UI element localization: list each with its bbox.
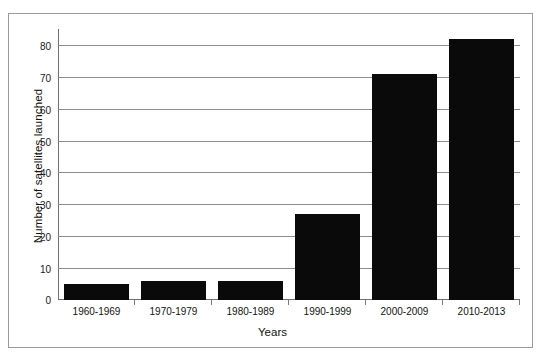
- bar[interactable]: [218, 281, 283, 300]
- y-tick-label: 50: [40, 136, 51, 147]
- x-tick-mark: [288, 300, 289, 305]
- x-tick-label: 2010-2013: [435, 306, 527, 317]
- plot-area: 01020304050607080 1960-19691970-19791980…: [58, 29, 520, 300]
- x-tick-mark: [442, 300, 443, 305]
- bar[interactable]: [295, 214, 360, 300]
- y-tick-label: 80: [40, 40, 51, 51]
- chart-figure: Number of satellites launched Years 0102…: [0, 0, 545, 358]
- y-tick-label: 60: [40, 104, 51, 115]
- bar[interactable]: [449, 39, 514, 300]
- y-tick-label: 30: [40, 200, 51, 211]
- y-tick-label: 10: [40, 264, 51, 275]
- bar-group: 1970-1979: [135, 29, 212, 300]
- y-tick-label: 0: [45, 295, 51, 306]
- x-tick-mark: [211, 300, 212, 305]
- x-axis-title: Years: [0, 326, 545, 338]
- bar-group: 1980-1989: [212, 29, 289, 300]
- y-tick-label: 20: [40, 232, 51, 243]
- bar-group: 1960-1969: [58, 29, 135, 300]
- x-tick-mark: [365, 300, 366, 305]
- x-tick-mark: [519, 300, 520, 305]
- y-tick-label: 70: [40, 72, 51, 83]
- x-tick-mark: [134, 300, 135, 305]
- bar-group: 2010-2013: [443, 29, 520, 300]
- bar-group: 1990-1999: [289, 29, 366, 300]
- bar[interactable]: [141, 281, 206, 300]
- y-tick-label: 40: [40, 168, 51, 179]
- bar-group: 2000-2009: [366, 29, 443, 300]
- bar[interactable]: [372, 74, 437, 300]
- bar[interactable]: [64, 284, 129, 300]
